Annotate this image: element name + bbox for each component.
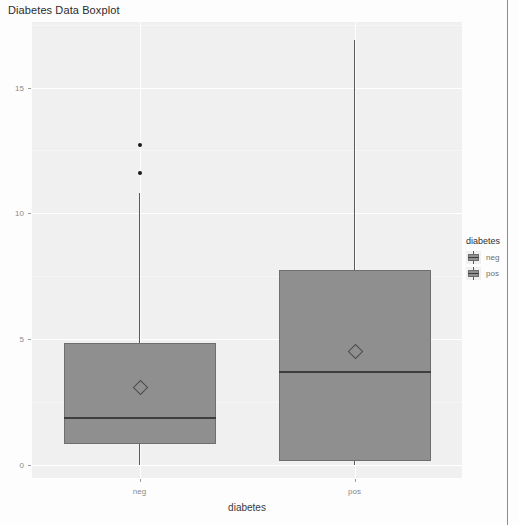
y-tick-mark (28, 339, 31, 340)
legend-title: diabetes (466, 236, 500, 246)
y-tick-label: 0 (20, 461, 24, 470)
x-tick-label-pos: pos (348, 487, 361, 496)
gridline-major (32, 88, 462, 89)
legend-key-boxplot-icon (466, 267, 481, 280)
chart-title: Diabetes Data Boxplot (8, 4, 120, 16)
legend: diabetes neg pos (466, 236, 500, 283)
x-tick-mark (140, 479, 141, 482)
legend-key-boxplot-icon (466, 251, 481, 264)
y-tick-mark (28, 465, 31, 466)
outlier-point (138, 171, 142, 175)
gridline-major (32, 465, 462, 466)
legend-item-neg[interactable]: neg (466, 251, 500, 264)
median-line-neg (64, 417, 216, 419)
box-pos[interactable] (279, 270, 431, 461)
whisker-lower (354, 461, 355, 465)
x-axis-title: diabetes (228, 502, 266, 513)
x-tick-mark (355, 479, 356, 482)
legend-item-pos[interactable]: pos (466, 267, 500, 280)
legend-label-neg: neg (486, 253, 499, 262)
gridline-major (32, 213, 462, 214)
y-tick-mark (28, 213, 31, 214)
whisker-upper (354, 40, 355, 271)
gridline-minor (32, 25, 462, 26)
legend-label-pos: pos (486, 269, 499, 278)
plot-panel (32, 22, 462, 478)
x-tick-label-neg: neg (133, 487, 146, 496)
whisker-lower (139, 444, 140, 466)
y-tick-label: 5 (20, 335, 24, 344)
y-tick-mark (28, 88, 31, 89)
chart-root: Diabetes Data Boxplot 051015negpos diabe… (0, 0, 519, 525)
gridline-minor (32, 150, 462, 151)
outlier-point (138, 143, 142, 147)
y-tick-label: 10 (15, 209, 24, 218)
y-tick-label: 15 (15, 83, 24, 92)
median-line-pos (279, 371, 431, 373)
page-border-line (507, 0, 508, 525)
whisker-upper (139, 193, 140, 343)
